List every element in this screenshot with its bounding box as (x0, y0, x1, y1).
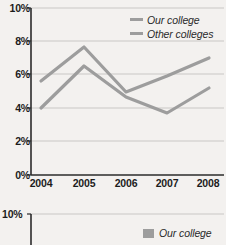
y-tick-label: 10% (2, 3, 30, 14)
chart-legend-secondary: Our college (143, 227, 212, 239)
x-tick-label: 2008 (191, 178, 225, 189)
y-tick-label: 2% (2, 136, 30, 147)
legend-label: Other colleges (147, 28, 213, 40)
x-axis-labels: 2004 2005 2006 2007 2008 (0, 178, 226, 196)
x-tick-label: 2004 (24, 178, 58, 189)
legend-line-swatch-icon (130, 32, 143, 35)
legend-label: Our college (159, 227, 212, 239)
y-tick-label: 6% (2, 69, 30, 80)
line-chart-secondary-cropped: 10% Our college (0, 200, 226, 245)
y-tick-label: 4% (2, 103, 30, 114)
x-tick-label: 2005 (67, 178, 101, 189)
legend-label: Our college (147, 14, 200, 26)
legend-line-swatch-icon (130, 18, 143, 21)
legend-item-other-colleges: Other colleges (130, 27, 226, 40)
legend-item-our-college: Our college (130, 13, 226, 26)
legend-box-swatch-icon (143, 229, 154, 238)
y-axis-labels: 10% 8% 6% 4% 2% 0% (0, 0, 30, 198)
line-chart-main: 10% 8% 6% 4% 2% 0% 2004 2005 2006 2007 2… (0, 0, 226, 198)
chart-legend: Our college Other colleges (130, 13, 226, 41)
y-tick-label: 8% (2, 36, 30, 47)
y-tick-label-secondary: 10% (2, 208, 22, 220)
chart-page: 10% 8% 6% 4% 2% 0% 2004 2005 2006 2007 2… (0, 0, 226, 245)
x-tick-label: 2006 (109, 178, 143, 189)
x-tick-label: 2007 (150, 178, 184, 189)
